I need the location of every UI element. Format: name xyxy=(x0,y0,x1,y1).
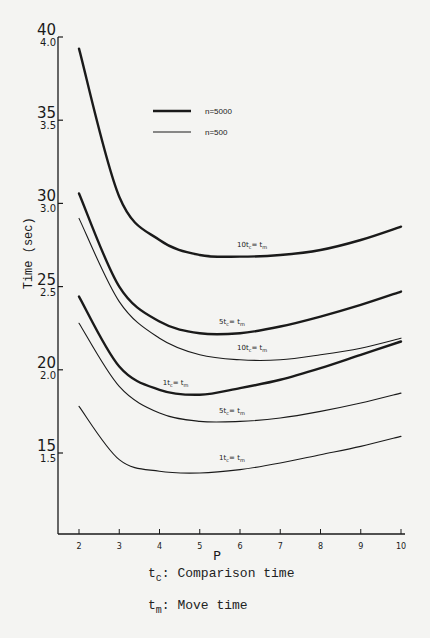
x-tick-label: 4 xyxy=(157,542,162,551)
curve-label: 1tc= tm xyxy=(219,454,245,463)
line-chart: 404.0353.5303.0252.5202.0151.52345678910… xyxy=(0,0,430,638)
x-tick-label: 5 xyxy=(197,542,202,551)
curve-labels: 10tc= tm5tc= tm10tc= tm1tc= tm5tc= tm1tc… xyxy=(163,241,267,463)
y-tick-sublabel: 2.0 xyxy=(40,370,56,381)
x-tick-label: 8 xyxy=(318,542,323,551)
curve-label: 10tc= tm xyxy=(237,241,267,250)
curve-label: 1tc= tm xyxy=(163,379,189,388)
caption-move-time: tm: Move time xyxy=(148,598,248,616)
x-tick-label: 3 xyxy=(117,542,122,551)
series-line-n500 xyxy=(79,323,401,422)
y-tick-sublabel: 1.5 xyxy=(40,453,56,464)
curve-label: 5tc= tm xyxy=(219,318,245,327)
caption-comparison-time: tc: Comparison time xyxy=(148,566,294,584)
tc-symbol: t xyxy=(148,566,156,581)
tc-text: : Comparison time xyxy=(162,566,295,581)
x-axis-label: P xyxy=(213,548,221,563)
x-tick-label: 7 xyxy=(278,542,283,551)
x-tick-label: 9 xyxy=(358,542,363,551)
tm-symbol: t xyxy=(148,598,156,613)
y-axis-label: Time (sec) xyxy=(22,217,36,289)
curve-label: 5tc= tm xyxy=(219,407,245,416)
axes: 404.0353.5303.0252.5202.0151.52345678910… xyxy=(22,21,406,563)
legend: n=5000n=500 xyxy=(153,107,232,137)
x-tick-label: 2 xyxy=(76,542,81,551)
series-line-n5000 xyxy=(79,49,401,257)
y-tick-sublabel: 3.0 xyxy=(40,203,56,214)
y-tick-sublabel: 3.5 xyxy=(40,120,56,131)
legend-label: n=5000 xyxy=(205,107,232,116)
curve-label: 10tc= tm xyxy=(237,344,267,353)
series-line-n500 xyxy=(79,406,401,473)
legend-label: n=500 xyxy=(205,128,228,137)
x-tick-label: 10 xyxy=(396,542,406,551)
y-tick-sublabel: 4.0 xyxy=(40,37,56,48)
tm-text: : Move time xyxy=(162,598,248,613)
x-tick-label: 6 xyxy=(237,542,242,551)
series-line-n500 xyxy=(79,218,401,360)
y-tick-sublabel: 2.5 xyxy=(40,287,56,298)
